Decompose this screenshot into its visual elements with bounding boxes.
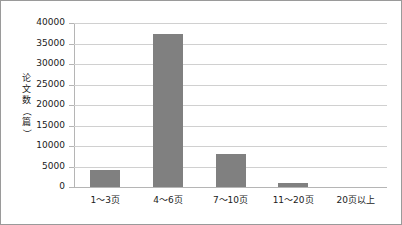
x-tick-label: 1～3页 xyxy=(74,193,137,206)
x-tick-label: 11～20页 xyxy=(262,193,325,206)
chart-figure: 论文数（篇） 400003500030000250002000015000100… xyxy=(0,0,402,225)
axis-baseline xyxy=(74,187,387,188)
y-axis-title-char: （ xyxy=(21,107,32,116)
y-axis-title: 论文数（篇） xyxy=(13,51,39,161)
x-tick-label: 4～6页 xyxy=(137,193,200,206)
bar xyxy=(90,170,120,187)
y-tick-label: 35000 xyxy=(36,38,65,48)
y-tick-label: 15000 xyxy=(36,120,65,130)
y-axis-title-char: 篇 xyxy=(22,117,31,128)
y-axis-title-char: 论 xyxy=(22,73,31,84)
gridline xyxy=(74,23,387,24)
y-axis-title-char: 文 xyxy=(22,84,31,95)
plot-area xyxy=(74,23,387,187)
y-tick-label: 5000 xyxy=(42,161,65,171)
y-tick-label: 10000 xyxy=(36,140,65,150)
y-tick-label: 40000 xyxy=(36,17,65,27)
gridline xyxy=(74,126,387,127)
bar xyxy=(278,183,308,188)
bar xyxy=(216,154,246,187)
x-tick-label: 7～10页 xyxy=(199,193,262,206)
y-axis-title-char: ） xyxy=(21,129,32,138)
x-tick-label: 20页以上 xyxy=(324,193,387,206)
y-tick-label: 20000 xyxy=(36,99,65,109)
gridline xyxy=(74,64,387,65)
bar xyxy=(153,34,183,187)
y-axis-title-char: 数 xyxy=(22,95,31,106)
gridline xyxy=(74,85,387,86)
gridline xyxy=(74,44,387,45)
y-tick-label: 25000 xyxy=(36,79,65,89)
gridline xyxy=(74,105,387,106)
y-tick-label: 30000 xyxy=(36,58,65,68)
gridline xyxy=(74,146,387,147)
y-tick-label: 0 xyxy=(59,181,65,191)
